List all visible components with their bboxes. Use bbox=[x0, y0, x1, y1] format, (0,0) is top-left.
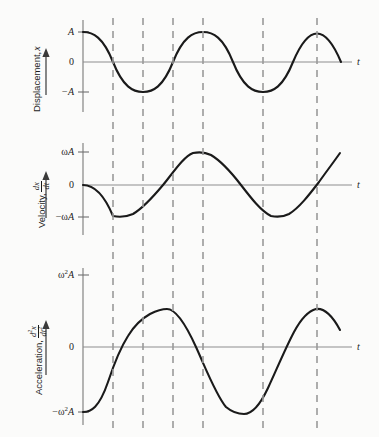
displacement-label-negA: −A bbox=[52, 87, 74, 97]
velocity-fraction-numerator: dx bbox=[32, 180, 41, 192]
displacement-t-label: t bbox=[357, 56, 360, 67]
acceleration-derivative-fraction: d2x dt2 bbox=[29, 324, 48, 339]
velocity-t-label: t bbox=[357, 179, 360, 190]
displacement-axis-title: Displacement, x bbox=[32, 46, 42, 112]
acceleration-label-neg-omega2A: −ω2A bbox=[38, 407, 74, 417]
velocity-amp-glyph: A bbox=[68, 146, 74, 157]
velocity-up-arrow-head bbox=[42, 171, 49, 180]
accel-num-exponent: 2 bbox=[27, 330, 33, 333]
displacement-label-A: A bbox=[58, 27, 74, 37]
acceleration-neg-amp-glyph: A bbox=[68, 406, 74, 417]
velocity-axis-title-text: Velocity, bbox=[37, 193, 47, 228]
accel-den-exponent: 2 bbox=[37, 327, 43, 330]
velocity-omega-glyph: ω bbox=[61, 146, 68, 157]
velocity-label-omegaA: ωA bbox=[50, 147, 74, 157]
vertical-guides bbox=[113, 18, 317, 428]
panel-displacement bbox=[78, 20, 352, 112]
acceleration-label-zero: 0 bbox=[58, 342, 74, 352]
velocity-derivative-fraction: dx dt bbox=[32, 180, 51, 192]
velocity-label-zero: 0 bbox=[58, 180, 74, 190]
panel-acceleration bbox=[78, 268, 352, 425]
acceleration-t-label: t bbox=[357, 341, 360, 352]
acceleration-axis-title: Acceleration, d2x dt2 bbox=[29, 324, 48, 395]
velocity-axis-title: Velocity, dx dt bbox=[32, 180, 51, 228]
acceleration-axis-title-text: Acceleration, bbox=[34, 340, 44, 395]
displacement-label-zero: 0 bbox=[58, 57, 74, 67]
shm-figure: A 0 −A t Displacement, x ωA 0 −ωA t Velo… bbox=[0, 0, 379, 437]
accel-num-d: d bbox=[28, 333, 38, 337]
displacement-axis-title-symbol: x bbox=[32, 46, 42, 50]
velocity-neg-omega-glyph: ω bbox=[61, 211, 68, 222]
velocity-fraction-denominator: dt bbox=[41, 181, 51, 192]
displacement-axis-title-text: Displacement, bbox=[32, 52, 42, 112]
acceleration-amp-glyph: A bbox=[68, 269, 74, 280]
velocity-neg-amp-glyph: A bbox=[68, 211, 74, 222]
acceleration-label-omega2A: ω2A bbox=[44, 270, 74, 280]
accel-den-dt: dt bbox=[38, 330, 48, 337]
displacement-up-arrow-head bbox=[42, 48, 49, 57]
panel-velocity bbox=[78, 143, 352, 235]
acceleration-fraction-denominator: dt2 bbox=[38, 325, 48, 339]
acceleration-curve bbox=[83, 309, 340, 414]
